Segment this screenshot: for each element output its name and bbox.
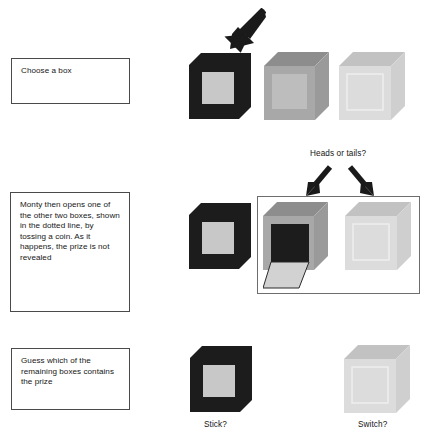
diagram-canvas: Choose a box [0,0,422,440]
label-switch: Switch? [358,419,387,430]
label-stick: Stick? [204,419,227,430]
coin-arrow-left-icon [303,165,333,197]
caption-choose-a-box: Choose a box [11,58,130,104]
caption-monty-opens-a-box: Monty then opens one of the other two bo… [10,192,130,312]
cube-box-three[interactable] [339,52,405,120]
cube-chosen-box-row2[interactable] [189,203,251,269]
cube-box-three-row2[interactable] [345,202,411,270]
cube-box-two[interactable] [264,52,329,120]
cube-opened-box[interactable] [263,202,343,294]
caption-guess-remaining-box: Guess which of the remaining boxes conta… [11,348,130,410]
cube-switch-box[interactable] [344,345,410,413]
cube-chosen-box[interactable] [189,53,251,119]
label-heads-or-tails: Heads or tails? [310,148,366,159]
coin-arrow-right-icon [347,165,377,197]
cube-stick-box[interactable] [190,346,252,412]
